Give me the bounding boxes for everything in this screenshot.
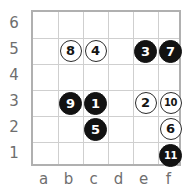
stone-white-2[interactable]: 2 [135,92,157,114]
row-label-2: 2 [0,114,28,140]
row-label-4: 4 [0,62,28,88]
column-label-e: e [131,167,156,191]
stone-black-9[interactable]: 9 [59,92,82,115]
board-grid[interactable]: 1234567891011 [31,10,181,166]
stone-white-4[interactable]: 4 [85,40,107,62]
row-label-5: 5 [0,36,28,62]
stone-black-7[interactable]: 7 [159,40,182,63]
stone-black-5[interactable]: 5 [84,118,107,141]
row-label-1: 1 [0,140,28,166]
stone-white-8[interactable]: 8 [60,40,82,62]
column-label-c: c [81,167,106,191]
stone-black-11[interactable]: 11 [159,144,182,167]
column-label-f: f [156,167,181,191]
grid-horizontal-line [33,142,179,143]
column-label-a: a [31,167,56,191]
column-label-d: d [106,167,131,191]
row-label-3: 3 [0,88,28,114]
stone-black-3[interactable]: 3 [134,40,157,63]
row-label-6: 6 [0,10,28,36]
stone-black-1[interactable]: 1 [84,92,107,115]
stone-white-10[interactable]: 10 [160,92,182,114]
board-figure: 654321 abcdef 1234567891011 [0,0,192,193]
stone-white-6[interactable]: 6 [160,118,182,140]
column-label-b: b [56,167,81,191]
